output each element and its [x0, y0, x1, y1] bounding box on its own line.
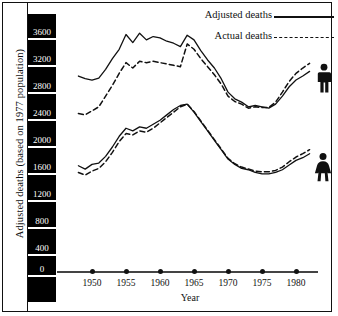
- x-tick-label: 1965: [177, 278, 211, 288]
- x-tick-marker: [158, 269, 163, 274]
- x-tick-label: 1970: [211, 278, 245, 288]
- series-line-female-actual-deaths: [78, 104, 309, 175]
- plot-curves: [0, 0, 338, 316]
- x-tick-label: 1980: [279, 278, 313, 288]
- series-line-female-adjusted-deaths: [78, 104, 309, 174]
- x-axis-title: Year: [150, 292, 230, 303]
- female-figure-icon: [312, 152, 334, 188]
- x-tick-marker: [294, 269, 299, 274]
- series-line-male-adjusted-deaths: [78, 33, 309, 108]
- x-tick-marker: [226, 269, 231, 274]
- x-axis-line: [57, 271, 318, 273]
- x-tick-marker: [192, 269, 197, 274]
- x-tick-marker: [260, 269, 265, 274]
- x-tick-label: 1955: [109, 278, 143, 288]
- x-tick-label: 1975: [245, 278, 279, 288]
- x-tick-label: 1950: [75, 278, 109, 288]
- chart-figure: Adjusted deaths (based on 1977 populatio…: [0, 0, 338, 316]
- x-tick-marker: [90, 269, 95, 274]
- x-tick-label: 1960: [143, 278, 177, 288]
- x-tick-marker: [124, 269, 129, 274]
- male-figure-icon: [314, 63, 334, 97]
